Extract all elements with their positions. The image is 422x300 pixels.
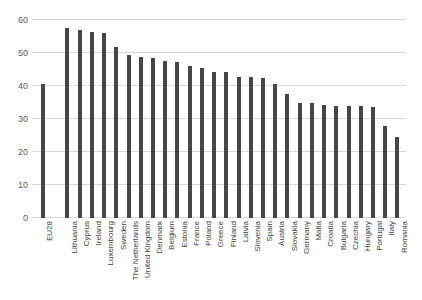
y-tick-label: 40 bbox=[18, 82, 28, 91]
x-tick-label: Spain bbox=[266, 221, 274, 241]
x-tick-label: Belgium bbox=[168, 221, 176, 250]
y-tick-label: 20 bbox=[18, 148, 28, 157]
bar bbox=[175, 62, 179, 218]
bar bbox=[65, 28, 69, 218]
x-tick-label: Slovakia bbox=[291, 221, 299, 251]
bar bbox=[359, 106, 363, 218]
x-tick-label-text: Lithuania bbox=[71, 221, 79, 253]
bar bbox=[78, 30, 82, 218]
bar bbox=[188, 66, 192, 218]
x-tick-label: Ireland bbox=[95, 221, 103, 245]
x-tick-label-text: France bbox=[193, 221, 201, 246]
x-tick-label-text: Belgium bbox=[168, 221, 176, 250]
x-tick-label: Bulgaria bbox=[340, 221, 348, 250]
bar bbox=[114, 47, 118, 218]
x-tick-label-text: Ireland bbox=[95, 221, 103, 245]
bar bbox=[261, 78, 265, 218]
x-tick-label: Czechia bbox=[352, 221, 360, 250]
x-tick-label-text: Romania bbox=[401, 221, 409, 253]
bar bbox=[298, 103, 302, 219]
bar bbox=[151, 58, 155, 218]
x-tick-label: Italy bbox=[388, 221, 396, 236]
x-tick-label: Poland bbox=[205, 221, 213, 246]
x-tick-label-text: The Netherlands bbox=[132, 221, 140, 280]
x-tick-label-text: Poland bbox=[205, 221, 213, 246]
x-tick-label: Germany bbox=[303, 221, 311, 254]
x-tick-label: Slovenia bbox=[254, 221, 262, 252]
plot-area bbox=[32, 20, 406, 218]
x-tick-label: Greece bbox=[217, 221, 225, 247]
x-tick-label-text: Croatia bbox=[327, 221, 335, 247]
bar bbox=[273, 84, 277, 218]
bar bbox=[102, 33, 106, 218]
x-tick-label: France bbox=[193, 221, 201, 246]
bar bbox=[212, 72, 216, 218]
x-tick-label-text: Portugal bbox=[376, 221, 384, 251]
bar bbox=[127, 55, 131, 218]
x-axis-tick-labels: EU28LithuaniaCyprusIrelandLuxembourgSwed… bbox=[32, 221, 406, 299]
x-tick-label-text: Cyprus bbox=[83, 221, 91, 246]
y-tick-label: 60 bbox=[18, 16, 28, 25]
x-tick-label: Malta bbox=[315, 221, 323, 241]
x-tick-label-text: Denmark bbox=[156, 221, 164, 253]
bar bbox=[285, 94, 289, 218]
bar bbox=[139, 57, 143, 218]
x-tick-label-text: Greece bbox=[217, 221, 225, 247]
x-tick-label-text: Slovakia bbox=[291, 221, 299, 251]
y-tick-label: 0 bbox=[23, 214, 28, 223]
bar bbox=[383, 126, 387, 218]
x-tick-label-text: Italy bbox=[388, 221, 396, 236]
bar-series bbox=[32, 20, 406, 218]
x-tick-label: Austria bbox=[278, 221, 286, 246]
x-tick-label-text: Finland bbox=[230, 221, 238, 247]
x-tick-label: Lithuania bbox=[71, 221, 79, 253]
x-tick-label-text: Luxembourg bbox=[107, 221, 115, 265]
bar bbox=[200, 68, 204, 218]
y-tick-label: 10 bbox=[18, 181, 28, 190]
x-tick-label-text: Sweden bbox=[120, 221, 128, 250]
x-tick-label-text: Hungary bbox=[364, 221, 372, 251]
x-tick-label: Estonia bbox=[181, 221, 189, 248]
x-tick-label: EU28 bbox=[46, 221, 54, 241]
bar bbox=[371, 107, 375, 218]
bar bbox=[237, 77, 241, 218]
bar bbox=[163, 61, 167, 218]
x-tick-label: Hungary bbox=[364, 221, 372, 251]
x-tick-label-text: Czechia bbox=[352, 221, 360, 250]
x-tick-label: Croatia bbox=[327, 221, 335, 247]
y-tick-label: 30 bbox=[18, 115, 28, 124]
x-tick-label: Finland bbox=[230, 221, 238, 247]
y-tick-label: 50 bbox=[18, 49, 28, 58]
y-axis-tick-labels: 0102030405060 bbox=[0, 20, 28, 218]
x-tick-label: Sweden bbox=[120, 221, 128, 250]
x-tick-label: Cyprus bbox=[83, 221, 91, 246]
bar bbox=[90, 32, 94, 218]
bar bbox=[41, 84, 45, 218]
x-tick-label-text: Austria bbox=[278, 221, 286, 246]
x-tick-label-text: United Kingdom bbox=[144, 221, 152, 278]
x-tick-label: Luxembourg bbox=[107, 221, 115, 265]
x-tick-label-text: Spain bbox=[266, 221, 274, 241]
bar bbox=[310, 103, 314, 218]
x-tick-label-text: Slovenia bbox=[254, 221, 262, 252]
bar bbox=[322, 105, 326, 218]
bar bbox=[395, 137, 399, 218]
bar bbox=[249, 77, 253, 218]
x-tick-label: Latvia bbox=[242, 221, 250, 242]
x-tick-label: Romania bbox=[401, 221, 409, 253]
x-tick-label-text: EU28 bbox=[46, 221, 54, 241]
x-tick-label-text: Latvia bbox=[242, 221, 250, 242]
x-tick-label-text: Germany bbox=[303, 221, 311, 254]
x-tick-label: Denmark bbox=[156, 221, 164, 253]
x-tick-label: Portugal bbox=[376, 221, 384, 251]
bar-chart: 0102030405060 EU28LithuaniaCyprusIreland… bbox=[0, 0, 422, 300]
x-tick-label: The Netherlands bbox=[132, 221, 140, 280]
x-tick-label: United Kingdom bbox=[144, 221, 152, 278]
x-tick-label-text: Malta bbox=[315, 221, 323, 241]
x-tick-label-text: Bulgaria bbox=[340, 221, 348, 250]
bar bbox=[224, 72, 228, 218]
bar bbox=[334, 106, 338, 218]
x-tick-label-text: Estonia bbox=[181, 221, 189, 248]
bar bbox=[347, 106, 351, 218]
